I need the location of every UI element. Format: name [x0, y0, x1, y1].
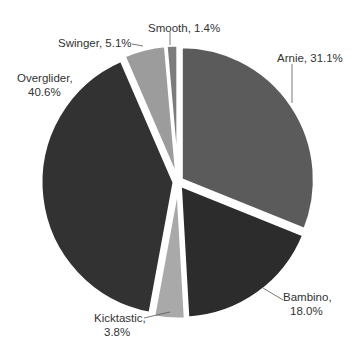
label-overglider-name: Overglider, — [17, 72, 73, 84]
label-overglider-value: 40.6% — [28, 86, 61, 98]
label-smooth: Smooth, 1.4% — [148, 22, 220, 34]
pie-chart: Arnie, 31.1% Bambino, 18.0% Kicktastic, … — [0, 0, 352, 353]
leader-line-bambino — [263, 288, 283, 300]
label-kicktastic-name: Kicktastic, — [94, 312, 146, 324]
leader-line-swinger — [132, 44, 143, 46]
label-kicktastic-value: 3.8% — [104, 326, 130, 338]
label-bambino-value: 18.0% — [290, 305, 323, 317]
label-bambino-name: Bambino, — [283, 291, 332, 303]
label-arnie: Arnie, 31.1% — [277, 52, 343, 64]
pie-slices — [41, 45, 314, 319]
label-swinger: Swinger, 5.1% — [58, 37, 132, 49]
